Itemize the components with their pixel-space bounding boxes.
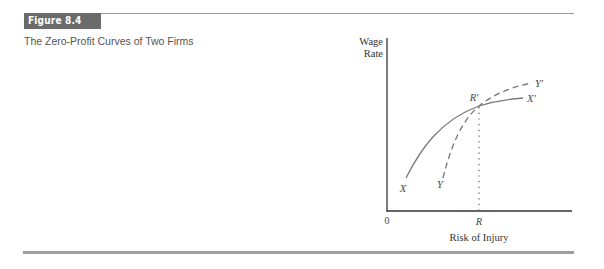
y-axis-label-line1: Wage — [359, 36, 383, 47]
tick-r: R — [475, 216, 483, 227]
y-axis-label-line2: Rate — [364, 48, 384, 59]
label-y: Y — [437, 179, 444, 190]
label-x: X — [399, 183, 407, 194]
label-r-prime: R′ — [469, 92, 479, 103]
label-x-prime: X′ — [526, 93, 536, 104]
curve-x — [406, 98, 523, 178]
tick-origin: 0 — [385, 215, 390, 226]
chart: Wage Rate Risk of Injury 0 R X Y X′ Y′ R… — [0, 0, 604, 269]
curve-y — [443, 83, 532, 178]
bottom-rule — [23, 251, 574, 254]
label-y-prime: Y′ — [535, 78, 544, 89]
x-axis-label: Risk of Injury — [450, 232, 510, 243]
